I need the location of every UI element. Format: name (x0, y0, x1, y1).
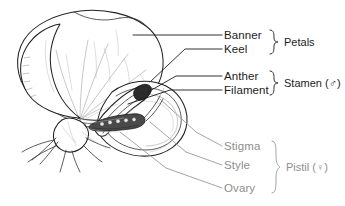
label-anther: Anther (224, 70, 259, 82)
group-labels: Petals Stamen (♂) Pistil (♀) (284, 36, 341, 173)
group-label-petals: Petals (284, 36, 315, 48)
flower-illustration (18, 10, 187, 172)
group-label-stamen: Stamen (♂) (284, 77, 341, 89)
label-keel: Keel (224, 43, 247, 55)
group-braces (270, 30, 280, 193)
group-label-pistil: Pistil (♀) (286, 161, 328, 173)
label-style: Style (224, 159, 250, 171)
brace-petals (270, 30, 278, 54)
label-banner: Banner (224, 29, 262, 41)
label-filament: Filament (224, 84, 270, 96)
flower-anatomy-figure: Banner Keel Anther Filament Stigma Style… (0, 0, 345, 206)
label-ovary: Ovary (224, 182, 255, 194)
brace-pistil (272, 141, 280, 193)
part-labels: Banner Keel Anther Filament Stigma Style… (224, 29, 270, 194)
diagram-page: Banner Keel Anther Filament Stigma Style… (0, 0, 345, 206)
label-stigma: Stigma (224, 140, 261, 152)
brace-stamen (270, 71, 278, 95)
